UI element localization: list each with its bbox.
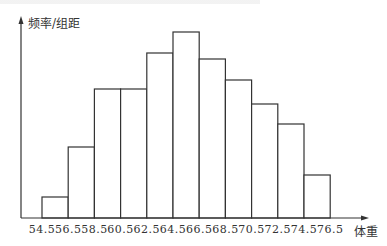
x-tick-label: 64.5	[160, 223, 187, 236]
histogram-bar	[278, 124, 304, 218]
x-axis-label: 体重	[354, 222, 378, 239]
x-tick-label: 76.5	[317, 223, 344, 236]
histogram-bar	[94, 89, 120, 218]
histogram-bar	[304, 175, 330, 218]
histogram-bar	[68, 147, 94, 218]
histogram-bar	[147, 53, 173, 218]
x-tick-label: 58.5	[81, 223, 108, 236]
x-tick-label: 68.5	[212, 223, 239, 236]
x-tick-label: 62.5	[134, 223, 161, 236]
histogram-bar	[42, 197, 68, 218]
histogram	[0, 0, 387, 246]
histogram-bar	[173, 32, 199, 218]
x-tick-label: 74.5	[291, 223, 318, 236]
x-tick-label: 72.5	[265, 223, 292, 236]
histogram-bars	[42, 32, 330, 218]
x-tick-label: 54.5	[29, 223, 56, 236]
histogram-bar	[225, 80, 251, 218]
x-tick-label: 60.5	[107, 223, 134, 236]
x-tick-label: 70.5	[238, 223, 265, 236]
x-tick-label: 56.5	[55, 223, 82, 236]
histogram-bar	[121, 89, 147, 218]
histogram-bar	[199, 59, 225, 218]
x-axis-arrow-icon	[361, 216, 369, 221]
y-axis-label: 频率/组距	[28, 14, 80, 31]
y-axis-arrow-icon	[19, 16, 24, 24]
histogram-bar	[252, 104, 278, 218]
x-tick-label: 66.5	[186, 223, 213, 236]
